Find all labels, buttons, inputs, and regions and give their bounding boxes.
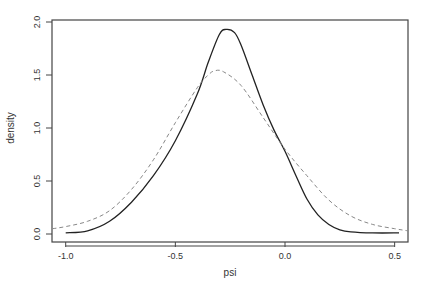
x-tick-label: -0.5 — [168, 251, 184, 261]
y-axis: 0.00.51.01.52.0 — [32, 16, 52, 241]
y-tick-label: 0.0 — [32, 228, 42, 241]
x-axis: -1.0-0.50.00.5 — [58, 242, 401, 261]
y-tick-label: 2.0 — [32, 16, 42, 29]
density-chart: -1.0-0.50.00.5 0.00.51.01.52.0 psi densi… — [0, 0, 430, 287]
solid-density-curve — [66, 29, 399, 233]
series-group — [53, 29, 408, 233]
x-axis-label: psi — [224, 267, 237, 278]
x-tick-label: -1.0 — [58, 251, 74, 261]
y-axis-label: density — [5, 112, 16, 144]
y-tick-label: 0.5 — [32, 175, 42, 188]
plot-frame — [52, 20, 408, 242]
x-tick-label: 0.5 — [388, 251, 401, 261]
dashed-density-curve — [53, 70, 408, 231]
x-tick-label: 0.0 — [279, 251, 292, 261]
y-tick-label: 1.0 — [32, 122, 42, 135]
y-tick-label: 1.5 — [32, 69, 42, 82]
